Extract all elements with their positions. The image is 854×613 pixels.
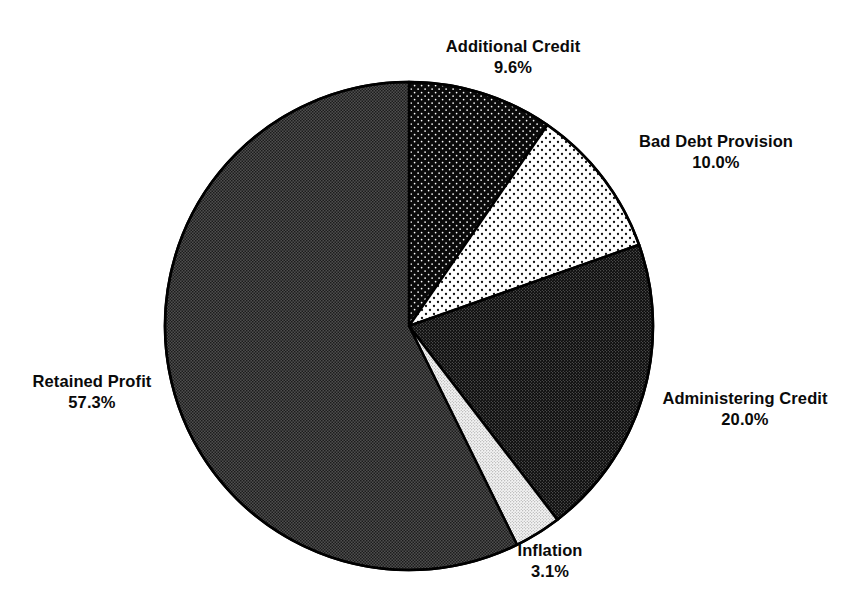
- slice-label-inflation: Inflation 3.1%: [470, 540, 630, 582]
- slice-label-name: Inflation: [470, 540, 630, 561]
- slice-label-name: Additional Credit: [393, 36, 633, 57]
- slice-label-bad-debt-provision: Bad Debt Provision 10.0%: [600, 131, 832, 173]
- slice-label-additional-credit: Additional Credit 9.6%: [393, 36, 633, 78]
- slice-label-percent: 10.0%: [600, 152, 832, 173]
- slice-label-retained-profit: Retained Profit 57.3%: [2, 371, 182, 413]
- pie-chart-svg: [0, 0, 854, 613]
- pie-slice-group: [165, 82, 653, 570]
- pie-chart-figure: Additional Credit 9.6% Bad Debt Provisio…: [0, 0, 854, 613]
- slice-label-name: Bad Debt Provision: [600, 131, 832, 152]
- slice-label-administering-credit: Administering Credit 20.0%: [640, 388, 850, 430]
- slice-label-percent: 20.0%: [640, 409, 850, 430]
- slice-label-name: Retained Profit: [2, 371, 182, 392]
- slice-label-percent: 9.6%: [393, 57, 633, 78]
- slice-label-percent: 57.3%: [2, 392, 182, 413]
- slice-label-percent: 3.1%: [470, 561, 630, 582]
- slice-label-name: Administering Credit: [640, 388, 850, 409]
